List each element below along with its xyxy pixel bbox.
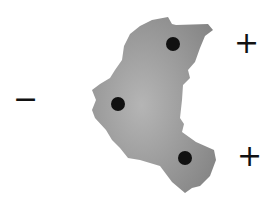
grey-region-shape [92, 17, 216, 193]
dot-middle [111, 97, 125, 111]
dot-top [166, 37, 180, 51]
plus-sign-bottom: + [237, 141, 262, 171]
plus-sign-top: + [234, 28, 259, 58]
minus-sign: − [13, 84, 38, 114]
dot-bottom [178, 151, 192, 165]
